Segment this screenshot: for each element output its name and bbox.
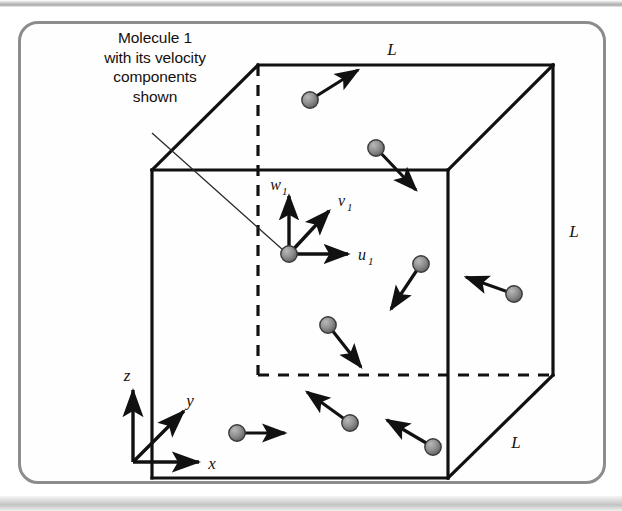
molecule-spheres xyxy=(229,92,522,455)
molecule-sphere-7 xyxy=(229,425,245,441)
axis-y xyxy=(133,411,184,462)
figure-page: Molecule 1 with its velocity components … xyxy=(0,0,622,511)
velocity-label-u: u xyxy=(358,246,366,263)
velocity-label-u-subscript: 1 xyxy=(368,255,374,267)
cube-edge-top-left-slant xyxy=(152,65,258,170)
cube-edge-bottom-right-slant xyxy=(448,375,553,478)
axis-label-z: z xyxy=(123,366,131,385)
molecule-sphere-2 xyxy=(302,92,318,108)
molecule-sphere-5 xyxy=(506,286,522,302)
edge-label-bottom-right: L xyxy=(510,433,520,452)
molecule-sphere-4 xyxy=(413,256,429,272)
caption-leader-line xyxy=(152,133,283,250)
molecule-sphere-6 xyxy=(320,317,336,333)
gas-molecules xyxy=(237,70,514,447)
molecule-sphere-3 xyxy=(368,140,384,156)
axis-label-x: x xyxy=(207,454,216,473)
cube-edge-top-right-slant xyxy=(448,65,553,170)
molecule-sphere-9 xyxy=(425,439,441,455)
velocity-label-v: v xyxy=(338,192,346,209)
cube-diagram: L L L w 1 v 1 u 1 xyxy=(0,0,622,511)
velocity-label-w-subscript: 1 xyxy=(282,185,288,197)
velocity-label-v-subscript: 1 xyxy=(347,201,353,213)
molecule-sphere-1 xyxy=(281,246,297,262)
velocity-label-w: w xyxy=(270,176,281,193)
molecule-sphere-8 xyxy=(342,415,358,431)
axis-label-y: y xyxy=(184,391,194,410)
edge-label-top: L xyxy=(386,40,396,59)
edge-label-right: L xyxy=(568,222,578,241)
